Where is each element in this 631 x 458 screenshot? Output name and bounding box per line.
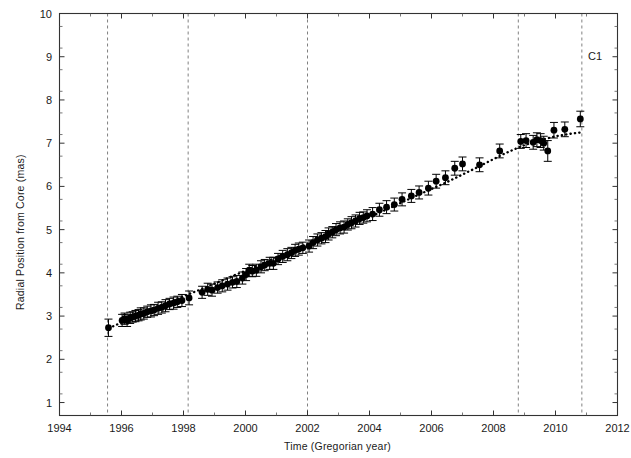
data-point xyxy=(432,174,440,188)
x-tick-label: 2004 xyxy=(357,422,381,434)
y-tick-label: 5 xyxy=(18,224,52,236)
x-tick-label: 2012 xyxy=(605,422,629,434)
data-series xyxy=(104,111,584,336)
y-tick-label: 1 xyxy=(18,397,52,409)
data-point xyxy=(576,111,584,127)
radial-position-chart: Radial Position from Core (mas) Time (Gr… xyxy=(0,0,631,458)
data-point xyxy=(390,198,398,211)
x-tick-label: 1998 xyxy=(171,422,195,434)
x-tick-label: 2010 xyxy=(543,422,567,434)
y-tick-label: 9 xyxy=(18,51,52,63)
data-point xyxy=(185,291,193,305)
x-tick-label: 2006 xyxy=(419,422,443,434)
component-label-c1: C1 xyxy=(588,50,602,62)
y-tick-label: 4 xyxy=(18,267,52,279)
x-tick-label: 2002 xyxy=(295,422,319,434)
data-point xyxy=(104,319,112,336)
data-point xyxy=(476,158,484,172)
y-tick-label: 8 xyxy=(18,94,52,106)
data-point xyxy=(424,181,432,195)
y-tick-label: 7 xyxy=(18,137,52,149)
data-point xyxy=(459,157,467,171)
plot-area xyxy=(0,0,631,458)
data-point xyxy=(383,201,391,214)
x-tick-label: 1994 xyxy=(47,422,71,434)
data-point xyxy=(496,144,504,158)
x-axis-title: Time (Gregorian year) xyxy=(22,440,631,452)
x-tick-label: 2000 xyxy=(233,422,257,434)
axis-frame xyxy=(60,14,618,416)
data-point xyxy=(451,161,459,175)
y-tick-label: 3 xyxy=(18,310,52,322)
axis-ticks xyxy=(60,14,618,416)
y-tick-label: 10 xyxy=(18,8,52,20)
x-tick-label: 1996 xyxy=(109,422,133,434)
y-tick-label: 2 xyxy=(18,353,52,365)
y-tick-label: 6 xyxy=(18,180,52,192)
x-tick-label: 2008 xyxy=(481,422,505,434)
epoch-vlines xyxy=(108,14,582,416)
